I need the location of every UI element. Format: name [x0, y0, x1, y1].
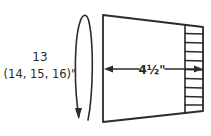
arrowhead-left-icon	[104, 66, 113, 73]
arrowhead-right-icon	[194, 66, 203, 73]
circumference-value: 13	[32, 50, 47, 64]
circular-arrow-icon	[75, 15, 92, 120]
schematic-diagram: 13 (14, 15, 16)" 4½"	[0, 0, 211, 136]
circumference-sizes: (14, 15, 16)"	[4, 67, 77, 81]
width-label: 4½"	[138, 63, 165, 77]
